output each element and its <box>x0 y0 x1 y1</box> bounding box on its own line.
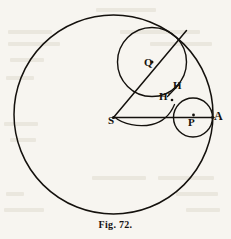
label-point-s: S <box>108 115 114 126</box>
figure-plate: S Q P A H H' Fig. 72. <box>0 0 231 239</box>
point-dot-h-prime <box>171 99 174 102</box>
figure-caption: Fig. 72. <box>0 219 231 230</box>
label-point-q: Q <box>144 57 153 68</box>
label-point-h: H <box>173 80 182 91</box>
traced-curve <box>115 105 175 126</box>
radius-line-sq <box>114 31 187 118</box>
geometry-diagram <box>0 0 231 239</box>
label-point-a: A <box>214 110 223 122</box>
label-point-h-prime: H' <box>159 91 171 102</box>
label-point-p: P <box>188 117 195 128</box>
